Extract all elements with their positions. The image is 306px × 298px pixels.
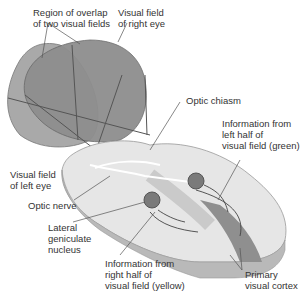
- label-optic-nerve: Optic nerve: [28, 200, 77, 211]
- label-right-half: Information from right half of visual fi…: [105, 258, 185, 291]
- lgn-left: [144, 192, 160, 208]
- label-right-field: Visual field of right eye: [118, 7, 165, 29]
- label-left-half: Information from left half of visual fie…: [222, 118, 300, 151]
- label-optic-chiasm: Optic chiasm: [186, 95, 241, 106]
- label-primary-visual-cortex: Primary visual cortex: [245, 269, 298, 291]
- label-overlap: Region of overlap of two visual fields: [33, 7, 110, 29]
- lgn-right: [188, 173, 204, 189]
- label-left-field: Visual field of left eye: [10, 169, 56, 191]
- label-lgn: Lateral geniculate nucleus: [48, 222, 91, 255]
